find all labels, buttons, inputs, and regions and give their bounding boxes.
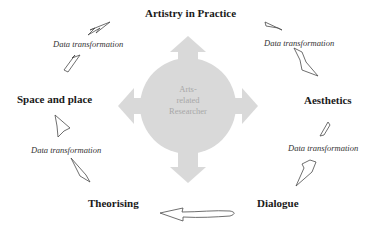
arrow-icon-artistry-to-aesthetics-tail bbox=[294, 48, 318, 76]
node-dialogue: Dialogue bbox=[257, 197, 299, 209]
arrow-icon-dialogue-to-theorising bbox=[160, 208, 234, 221]
arrow-icon-aesthetics-to-dialogue-head bbox=[320, 122, 330, 136]
label-transform-artistry-to-aesthetics: Data transformation bbox=[264, 38, 334, 48]
center-label-line-1: Arts- bbox=[160, 84, 216, 95]
research-cycle-diagram: Artistry in Practice Aesthetics Dialogue… bbox=[0, 0, 376, 231]
node-theorising: Theorising bbox=[88, 197, 139, 209]
label-transform-aesthetics-to-dialogue: Data transformation bbox=[288, 143, 358, 153]
node-aesthetics: Aesthetics bbox=[304, 94, 352, 106]
label-transform-space-to-artistry: Data transformation bbox=[53, 39, 123, 49]
arrow-icon-artistry-to-aesthetics-head bbox=[265, 22, 282, 30]
arrow-icon-aesthetics-to-dialogue-tail bbox=[296, 160, 316, 186]
label-transform-theorising-to-space: Data transformation bbox=[31, 145, 101, 155]
node-artistry-in-practice: Artistry in Practice bbox=[145, 7, 236, 19]
node-space-and-place: Space and place bbox=[17, 93, 92, 105]
arrow-icon-space-to-artistry-head bbox=[88, 22, 110, 35]
center-label-line-3: Researcher bbox=[160, 106, 216, 117]
center-label-line-2: related bbox=[160, 95, 216, 106]
arrow-icon-theorising-to-space-tail bbox=[71, 158, 90, 182]
arrow-icon-space-to-artistry-tail bbox=[64, 55, 80, 72]
arrow-icon-theorising-to-space-head bbox=[55, 115, 70, 137]
center-label-arts-related-researcher: Arts- related Researcher bbox=[160, 84, 216, 117]
